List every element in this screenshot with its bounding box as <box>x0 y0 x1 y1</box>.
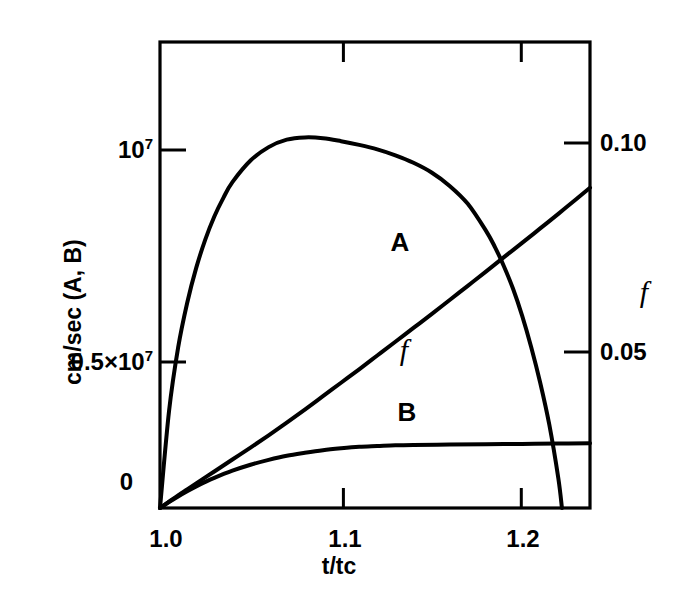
plot-frame <box>160 42 590 508</box>
x-tick-label-1.1: 1.1 <box>328 527 361 551</box>
f-tick-label-0.10: 0.10 <box>600 131 647 155</box>
y-tick-label-0: 0 <box>120 470 133 494</box>
curve-label-B: B <box>398 397 417 428</box>
data-curve-B <box>160 443 590 508</box>
axes-border <box>160 42 590 508</box>
y-tick-one-exponent: 7 <box>145 135 153 152</box>
data-curve-A <box>160 188 590 508</box>
y-axis-right-ticks <box>564 143 590 352</box>
y-axis-title-left: cm/sec (A, B) <box>60 239 87 385</box>
curve-label-f: f <box>400 333 408 367</box>
x-tick-label-1.2: 1.2 <box>506 527 539 551</box>
figure-container: 0 0.5×107 107 1.0 1.1 1.2 0.05 0.10 cm/s… <box>0 0 678 604</box>
y-tick-label-one: 107 <box>118 138 153 162</box>
curve-label-A: A <box>391 227 410 258</box>
y-tick-one-mantissa: 10 <box>118 136 145 163</box>
f-tick-label-0.05: 0.05 <box>600 340 647 364</box>
data-curve-f <box>160 137 562 508</box>
x-axis-ticks <box>343 42 521 508</box>
y-tick-half-exponent: 7 <box>145 347 153 364</box>
chart-canvas <box>0 0 678 604</box>
y-axis-title-right: f <box>640 275 648 309</box>
x-axis-title: t/tc <box>322 553 357 580</box>
x-tick-label-1.0: 1.0 <box>149 527 182 551</box>
